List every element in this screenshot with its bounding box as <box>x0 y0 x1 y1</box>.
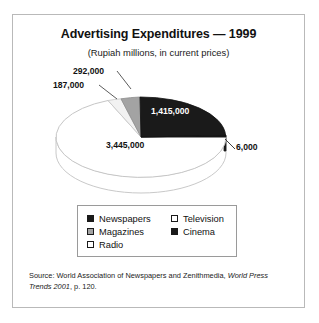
legend-swatch-radio <box>87 241 94 248</box>
pie-label-newspapers: 1,415,000 <box>151 106 189 116</box>
figure-frame: Advertising Expenditures — 1999 (Rupiah … <box>12 14 305 308</box>
legend-column-left: Newspapers Magazines Radio <box>87 212 171 251</box>
legend-item-magazines[interactable]: Magazines <box>87 225 171 238</box>
chart-subtitle: (Rupiah millions, in current prices) <box>13 47 304 58</box>
leader-line-magazines <box>117 71 131 89</box>
legend-column-right: Television Cinema <box>171 212 233 238</box>
legend-item-newspapers[interactable]: Newspapers <box>87 212 171 225</box>
pie-label-radio: 187,000 <box>53 80 84 90</box>
pie-chart: 292,000 187,000 1,415,000 3,445,000 6,00… <box>13 65 304 205</box>
pie-label-cinema: 6,000 <box>236 142 258 152</box>
chart-legend: Newspapers Magazines Radio Television Ci… <box>77 205 237 257</box>
legend-swatch-newspapers <box>87 215 94 222</box>
pie-label-television: 3,445,000 <box>106 140 144 150</box>
legend-label-television: Television <box>183 214 224 224</box>
legend-swatch-television <box>171 215 178 222</box>
legend-item-television[interactable]: Television <box>171 212 233 225</box>
legend-item-radio[interactable]: Radio <box>87 238 171 251</box>
pie-slice-newspapers <box>140 97 226 137</box>
legend-label-radio: Radio <box>99 240 123 250</box>
legend-item-cinema[interactable]: Cinema <box>171 225 233 238</box>
legend-swatch-magazines <box>87 228 94 235</box>
legend-label-cinema: Cinema <box>183 227 215 237</box>
source-note: Source: World Association of Newspapers … <box>29 271 291 292</box>
legend-label-magazines: Magazines <box>99 227 144 237</box>
chart-title: Advertising Expenditures — 1999 <box>13 27 304 41</box>
source-suffix: , p. 120. <box>70 282 97 291</box>
leader-line-radio <box>99 85 117 99</box>
pie-label-magazines: 292,000 <box>73 66 104 76</box>
legend-swatch-cinema <box>171 228 178 235</box>
legend-label-newspapers: Newspapers <box>99 214 151 224</box>
source-prefix: Source: World Association of Newspapers … <box>29 271 228 280</box>
